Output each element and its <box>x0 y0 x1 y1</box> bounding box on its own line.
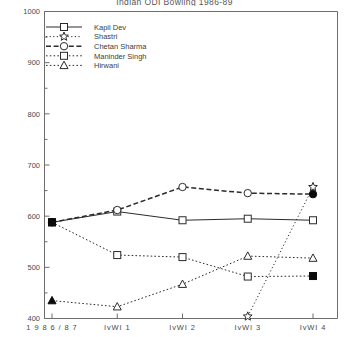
x-tick-label: IvWI 1 <box>104 323 131 332</box>
x-tick-label: IvWI 2 <box>169 323 196 332</box>
x-tick-label: IvWI 3 <box>234 323 261 332</box>
y-tick-label: 900 <box>27 58 40 67</box>
series-line <box>52 222 313 276</box>
data-point-marker <box>179 254 186 261</box>
series-layer <box>48 182 317 320</box>
data-point-marker <box>309 182 318 190</box>
data-point-marker <box>49 219 56 226</box>
chart-container: Indian ODI Bowling 1986-89 4005006007008… <box>0 0 349 337</box>
x-axis: 1 9 8 6 / 8 7IvWI 1IvWI 2IvWI 3IvWI 4 <box>26 314 326 333</box>
data-point-marker <box>244 189 251 196</box>
data-point-marker <box>179 217 186 224</box>
data-point-marker <box>113 303 121 310</box>
legend-label: Chetan Sharma <box>94 42 147 51</box>
data-point-marker <box>244 215 251 222</box>
series-kapil-dev <box>49 208 317 226</box>
legend-label: Hirwani <box>94 61 119 70</box>
y-tick-label: 700 <box>27 161 40 170</box>
y-axis: 4005006007008009001000 <box>23 7 49 323</box>
legend-marker-sample <box>60 43 67 50</box>
data-point-marker <box>310 273 317 280</box>
legend-marker-sample <box>60 32 69 40</box>
chart-legend: Kapil DevShastriChetan SharmaManinder Si… <box>46 23 147 70</box>
data-point-marker <box>309 190 316 197</box>
legend-label: Kapil Dev <box>94 23 126 32</box>
x-tick-label: IvWI 4 <box>300 323 327 332</box>
legend-item-chetan-sharma: Chetan Sharma <box>46 42 147 51</box>
data-point-marker <box>309 254 317 261</box>
data-point-marker <box>179 183 186 190</box>
y-tick-label: 800 <box>27 110 40 119</box>
chart-plot-area: 4005006007008009001000 1 9 8 6 / 8 7IvWI… <box>0 0 349 337</box>
y-tick-label: 500 <box>27 263 40 272</box>
data-point-marker <box>310 217 317 224</box>
legend-item-shastri: Shastri <box>46 32 118 41</box>
legend-item-hirwani: Hirwani <box>46 61 119 70</box>
series-line <box>248 187 313 316</box>
plot-frame <box>45 12 338 319</box>
legend-marker-sample <box>61 24 68 31</box>
data-point-marker <box>114 252 121 259</box>
y-tick-label: 600 <box>27 212 40 221</box>
data-point-marker <box>114 206 121 213</box>
x-tick-label: 1 9 8 6 / 8 7 <box>26 323 77 332</box>
legend-label: Maninder Singh <box>94 52 147 61</box>
legend-label: Shastri <box>94 32 118 41</box>
data-point-marker <box>48 296 56 303</box>
legend-item-kapil-dev: Kapil Dev <box>46 23 126 32</box>
y-tick-label: 400 <box>27 314 40 323</box>
data-point-marker <box>244 273 251 280</box>
series-maninder-singh <box>49 219 317 280</box>
legend-item-maninder-singh: Maninder Singh <box>46 52 147 61</box>
y-tick-label: 1000 <box>23 7 40 16</box>
series-shastri <box>243 182 317 320</box>
data-point-marker <box>244 252 252 259</box>
data-point-marker <box>179 280 187 287</box>
legend-marker-sample <box>61 52 68 59</box>
